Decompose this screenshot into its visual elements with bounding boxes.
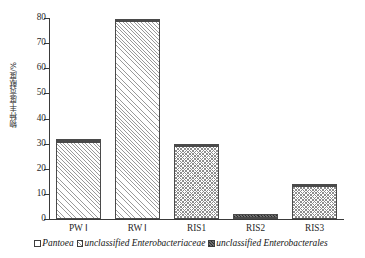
bar-segment <box>292 186 337 219</box>
bar-series-container <box>49 18 344 220</box>
chart-figure: 物种丰度贡献度/% 01020304050607080 PW ⅠRW ⅠRIS1… <box>0 0 365 258</box>
dark-square-icon <box>208 240 215 247</box>
legend-item: Pantoea <box>34 238 73 249</box>
y-tick-label: 60 <box>37 64 46 73</box>
bar-segment <box>233 214 278 218</box>
y-tick-label: 30 <box>37 139 46 148</box>
legend-label: unclassified Enterobacterales <box>216 238 327 249</box>
y-axis-title: 物种丰度贡献度/% <box>10 62 24 128</box>
white-square-icon <box>34 240 41 247</box>
x-tick-label: RIS3 <box>280 224 350 233</box>
legend-item: unclassified Enterobacterales <box>208 238 327 249</box>
bar-segment <box>292 184 337 186</box>
legend-item: unclassified Enterobacteriaceae <box>77 238 206 249</box>
hatched-square-icon <box>77 240 84 247</box>
bar-segment <box>56 142 101 219</box>
bar-segment <box>174 144 219 146</box>
y-tick-label: 0 <box>41 214 46 223</box>
chart-legend: Pantoeaunclassified Enterobacteriaceaeun… <box>0 238 365 249</box>
y-tick-label: 20 <box>37 164 46 173</box>
legend-label: unclassified Enterobacteriaceae <box>85 238 206 249</box>
plot-area: 01020304050607080 <box>49 18 344 220</box>
bar-segment <box>174 146 219 219</box>
bar-segment <box>115 19 160 21</box>
y-tick-label: 10 <box>37 189 46 198</box>
bar-segment <box>56 139 101 141</box>
bar-segment <box>115 21 160 219</box>
y-tick-label: 40 <box>37 114 46 123</box>
y-tick-label: 80 <box>37 13 46 22</box>
y-tick-label: 50 <box>37 89 46 98</box>
y-tick-label: 70 <box>37 38 46 47</box>
legend-label: Pantoea <box>42 238 73 249</box>
